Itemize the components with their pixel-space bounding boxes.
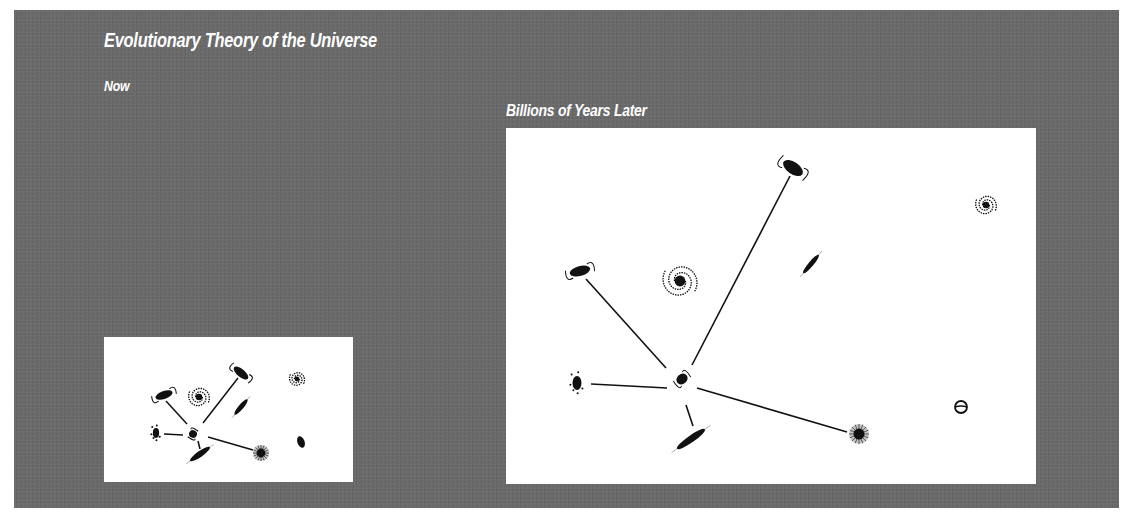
distance-line xyxy=(686,405,693,426)
irregular-left-icon xyxy=(150,424,160,441)
elliptical-bottom-right-icon xyxy=(849,424,869,444)
distance-line xyxy=(198,441,200,449)
figure-title: Evolutionary Theory of the Universe xyxy=(104,29,377,52)
distance-line xyxy=(166,401,187,424)
spiral-left-icon xyxy=(663,267,697,295)
elongated-spiral-top-icon xyxy=(776,153,810,182)
distance-line xyxy=(164,434,183,435)
edge-on-middle-icon xyxy=(230,395,252,420)
distance-line xyxy=(591,384,667,388)
distance-line xyxy=(697,388,847,432)
galaxy-map-later xyxy=(506,128,1036,484)
central-galaxy-icon xyxy=(186,427,199,441)
distance-line xyxy=(692,176,790,365)
elongated-spiral-left-icon xyxy=(564,262,595,280)
elliptical-bottom-icon xyxy=(253,445,269,461)
elongated-spiral-top-left-icon xyxy=(151,386,178,403)
galaxy-map-now xyxy=(104,337,353,482)
spiral-upper-icon xyxy=(189,388,210,405)
panel-label-later: Billions of Years Later xyxy=(506,101,647,121)
elongated-spiral-top-icon xyxy=(228,361,253,384)
central-galaxy-icon xyxy=(672,369,692,388)
ring-galaxy-right-icon xyxy=(955,401,967,413)
edge-on-middle-icon xyxy=(798,250,823,279)
panel-now-diagram xyxy=(104,337,353,482)
irregular-right-icon xyxy=(296,435,307,449)
edge-on-bottom-icon xyxy=(185,442,216,466)
spiral-top-right-icon xyxy=(290,373,305,386)
distance-line xyxy=(203,378,238,423)
panel-label-now: Now xyxy=(104,77,129,94)
distance-line xyxy=(208,437,253,450)
panel-later-diagram xyxy=(506,128,1036,484)
distance-line xyxy=(586,279,666,368)
spiral-top-right-icon xyxy=(976,196,997,213)
edge-on-bottom-icon xyxy=(669,422,712,455)
irregular-left-icon xyxy=(569,371,583,394)
